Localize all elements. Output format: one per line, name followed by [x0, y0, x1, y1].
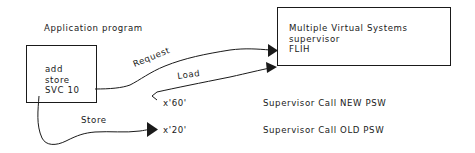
app-program-label: Application program — [44, 24, 143, 33]
app-box-text: add store SVC 10 — [45, 64, 80, 96]
load-arrow-line — [152, 68, 270, 100]
supervisor-line-flih: FLIH — [289, 44, 408, 55]
instruction-svc: SVC 10 — [45, 85, 80, 96]
supervisor-line-supervisor: supervisor — [289, 34, 408, 45]
svc-interrupt-diagram: Application program add store SVC 10 Mul… — [0, 0, 475, 153]
old-psw-address: x'20' — [163, 126, 187, 135]
load-arrowhead-icon — [266, 62, 277, 73]
store-label: Store — [81, 116, 107, 125]
supervisor-line-mvs: Multiple Virtual Systems — [289, 23, 408, 34]
new-psw-description: Supervisor Call NEW PSW — [263, 99, 386, 108]
old-psw-description: Supervisor Call OLD PSW — [263, 126, 384, 135]
instruction-store: store — [45, 75, 80, 86]
store-arrowhead-icon — [147, 122, 158, 137]
instruction-add: add — [45, 64, 80, 75]
new-psw-address: x'60' — [163, 99, 187, 108]
request-arrowhead-icon — [268, 44, 278, 57]
supervisor-box-text: Multiple Virtual Systems supervisor FLIH — [289, 23, 408, 55]
request-arrow-line — [95, 49, 270, 89]
